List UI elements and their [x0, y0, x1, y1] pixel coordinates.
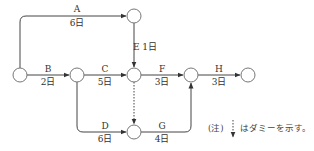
node-2 — [70, 68, 84, 82]
activity-d-name: D — [101, 121, 108, 131]
activity-c-name: C — [102, 64, 109, 74]
node-1 — [13, 68, 27, 82]
activity-b-duration: 2日 — [41, 77, 56, 87]
activity-g-arrow — [141, 83, 191, 132]
activity-c-duration: 5日 — [98, 77, 113, 87]
activity-g-name: G — [158, 121, 165, 131]
node-5 — [127, 125, 141, 139]
activity-a-duration: 6日 — [70, 18, 85, 28]
activity-b-name: B — [45, 64, 52, 74]
node-6 — [184, 68, 198, 82]
node-4 — [127, 68, 141, 82]
note-prefix: (注) — [208, 123, 224, 133]
node-3 — [127, 9, 141, 23]
activity-h-name: H — [215, 64, 223, 74]
note-text: はダミーを示す。 — [240, 123, 311, 133]
activity-a-name: A — [73, 4, 81, 14]
activity-h-duration: 3日 — [212, 77, 227, 87]
node-7 — [241, 68, 255, 82]
activity-g-duration: 4日 — [155, 134, 170, 144]
activity-e-label: E 1日 — [133, 42, 157, 52]
activity-f-duration: 3日 — [155, 77, 170, 87]
activity-f-name: F — [159, 64, 165, 74]
network-diagram: A 6日 B 2日 C 5日 D 6日 E 1日 F 3日 G 4日 H 3日 … — [0, 0, 314, 151]
activity-d-duration: 6日 — [98, 134, 113, 144]
